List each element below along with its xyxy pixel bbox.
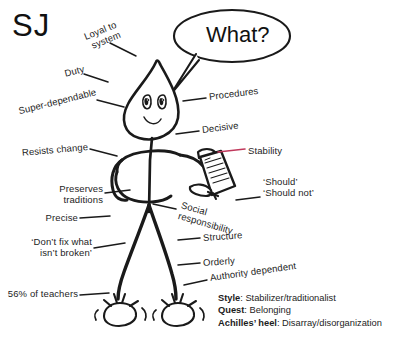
- leader-duty: [84, 74, 108, 82]
- speech-bubble-text: What?: [206, 22, 270, 48]
- label-preserves-traditions: Preserves traditions: [40, 183, 103, 205]
- legend-block: Style: Stabilizer/traditionalist Quest: …: [218, 292, 382, 329]
- legend-row-achilles: Achilles’ heel: Disarray/disorganization: [218, 317, 382, 329]
- leader-social-responsibility: [153, 204, 176, 209]
- leader-resists-change: [90, 149, 117, 156]
- label-dont-fix-what-isnt-broken: ‘Don’t fix what isn’t broken’: [12, 236, 92, 258]
- left-arm: [112, 160, 127, 200]
- torso: [116, 151, 180, 202]
- legend-achilles-value: : Disarray/disorganization: [277, 318, 382, 328]
- right-leg: [149, 205, 176, 299]
- legend-row-quest: Quest: Belonging: [218, 304, 382, 316]
- page-title: SJ: [12, 8, 50, 44]
- leader-loyal-to-system: [110, 43, 136, 56]
- leader-56-percent: [80, 293, 109, 295]
- leader-super-dependable: [97, 100, 124, 107]
- label-56-percent-of-teachers: 56% of teachers: [4, 288, 78, 299]
- leader-decisive: [176, 131, 199, 134]
- left-foot: [95, 294, 146, 326]
- sj-personality-type-diagram: SJ What? Loyal to system Duty Super-depe…: [0, 0, 417, 339]
- legend-style-key: Style: [218, 293, 240, 303]
- leader-precise: [80, 216, 110, 218]
- label-should-should-not: ‘Should’ ‘Should not’: [263, 176, 343, 198]
- leader-authority-dependent: [184, 280, 207, 285]
- legend-row-style: Style: Stabilizer/traditionalist: [218, 292, 382, 304]
- leader-orderly: [178, 263, 200, 265]
- leader-procedures: [183, 98, 206, 101]
- left-leg: [118, 205, 149, 299]
- leader-dont-fix: [94, 243, 125, 248]
- label-stability: Stability: [248, 145, 308, 156]
- legend-style-value: : Stabilizer/traditionalist: [240, 293, 336, 303]
- legend-quest-key: Quest: [218, 305, 244, 315]
- legend-achilles-key: Achilles’ heel: [218, 318, 277, 328]
- leader-structure: [178, 238, 200, 240]
- right-foot: [153, 294, 204, 326]
- legend-quest-value: : Belonging: [244, 305, 291, 315]
- leader-should: [236, 197, 260, 200]
- label-precise: Precise: [28, 212, 78, 223]
